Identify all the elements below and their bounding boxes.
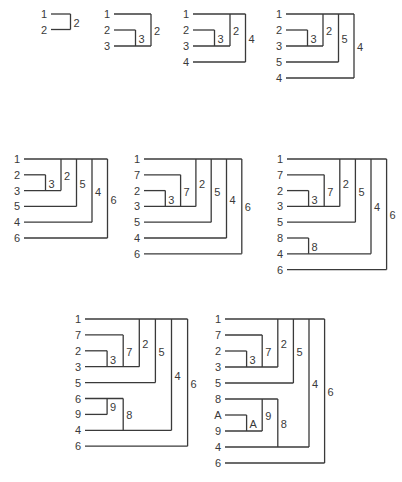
bracket-diagram-8: 17235694637259846 [75, 313, 197, 452]
row-label: 2 [41, 24, 47, 36]
row-label: 9 [75, 408, 81, 420]
bracket-label: 8 [312, 241, 318, 253]
bracket-diagram-9: 172358A9463725A9846 [214, 313, 333, 469]
row-label: 3 [183, 40, 189, 52]
row-label: 6 [277, 264, 283, 276]
bracket-label: 7 [184, 186, 190, 198]
bracket-label: 6 [328, 386, 334, 398]
row-label: 7 [75, 329, 81, 341]
bracket-label: 4 [374, 201, 380, 213]
bracket-diagram-6: 1723546372546 [134, 153, 251, 260]
bracket-label: 4 [175, 370, 181, 382]
row-label: 2 [75, 345, 81, 357]
bracket-label: 7 [327, 186, 333, 198]
row-label: 5 [75, 377, 81, 389]
bracket-label: 8 [281, 418, 287, 430]
bracket-diagram-7: 172358463725846 [277, 153, 396, 276]
row-label: 3 [215, 361, 221, 373]
row-label: 5 [134, 216, 140, 228]
bracket-label: 2 [343, 178, 349, 190]
bracket-label: 5 [296, 346, 302, 358]
bracket-label: 2 [281, 338, 287, 350]
row-label: 6 [215, 457, 221, 469]
row-label: 6 [14, 232, 20, 244]
row-label: 2 [276, 24, 282, 36]
row-label: 6 [75, 440, 81, 452]
bracket-label: 5 [342, 33, 348, 45]
row-label: 4 [134, 232, 140, 244]
row-label: 6 [134, 248, 140, 260]
row-label: 8 [215, 393, 221, 405]
bracket-label: 3 [49, 178, 55, 190]
row-label: 1 [75, 313, 81, 325]
row-label: 2 [183, 24, 189, 36]
row-label: 4 [276, 72, 282, 84]
bracket-label: 3 [312, 194, 318, 206]
row-label: 1 [41, 8, 47, 20]
row-label: 4 [75, 424, 81, 436]
row-label: 4 [277, 248, 283, 260]
row-label: 1 [104, 8, 110, 20]
bracket-label: 6 [390, 209, 396, 221]
row-label: 7 [277, 169, 283, 181]
bracket-label: 7 [126, 346, 132, 358]
row-label: 1 [277, 153, 283, 165]
row-label: 5 [14, 200, 20, 212]
bracket-label: 8 [126, 409, 132, 421]
row-label: 4 [215, 441, 221, 453]
row-label: 1 [14, 153, 20, 165]
bracket-label: 4 [230, 194, 236, 206]
row-label: 4 [183, 56, 189, 68]
row-label: 5 [277, 216, 283, 228]
row-label: 1 [276, 8, 282, 20]
bracket-label: 2 [64, 170, 70, 182]
row-label: 1 [134, 153, 140, 165]
row-label: 1 [183, 8, 189, 20]
bracket-label: 5 [80, 178, 86, 190]
bracket-label: 3 [110, 354, 116, 366]
bracket-label: 3 [311, 33, 317, 45]
row-label: 1 [215, 313, 221, 325]
bracket-diagram-3: 1234324 [183, 8, 255, 68]
bracket-diagram-1: 122 [41, 8, 80, 36]
bracket-label: 6 [245, 201, 251, 213]
bracket-label: 5 [214, 186, 220, 198]
bracket-label: 4 [249, 33, 255, 45]
row-label: A [214, 409, 222, 421]
bracket-label: 3 [218, 33, 224, 45]
bracket-label: 5 [158, 346, 164, 358]
bracket-label: 3 [139, 33, 145, 45]
row-label: 3 [134, 200, 140, 212]
row-label: 3 [277, 200, 283, 212]
row-label: 7 [134, 169, 140, 181]
row-label: 5 [215, 377, 221, 389]
bracket-label: 6 [191, 378, 197, 390]
bracket-label: 9 [110, 401, 116, 413]
bracket-diagram-4: 123543254 [276, 8, 363, 84]
row-label: 2 [134, 185, 140, 197]
bracket-label: 2 [154, 25, 160, 37]
bracket-label: 2 [142, 338, 148, 350]
bracket-label: 4 [95, 186, 101, 198]
bracket-label: 9 [265, 410, 271, 422]
bracket-label: 3 [168, 194, 174, 206]
bracket-label: 2 [199, 178, 205, 190]
bracket-label: 4 [312, 378, 318, 390]
bracket-diagram-5: 12354632546 [14, 153, 117, 244]
row-label: 4 [14, 216, 20, 228]
bracket-label: 7 [265, 346, 271, 358]
bracket-diagrams-canvas: 1221233212343241235432541235463254617235… [0, 0, 402, 482]
row-label: 2 [215, 345, 221, 357]
bracket-label: A [250, 418, 258, 430]
row-label: 3 [276, 40, 282, 52]
row-label: 7 [215, 329, 221, 341]
bracket-label: 3 [250, 354, 256, 366]
row-label: 3 [104, 40, 110, 52]
row-label: 3 [14, 185, 20, 197]
row-label: 2 [14, 169, 20, 181]
row-label: 2 [277, 185, 283, 197]
row-label: 5 [276, 56, 282, 68]
row-label: 2 [104, 24, 110, 36]
bracket-label: 5 [358, 186, 364, 198]
bracket-label: 4 [357, 41, 363, 53]
